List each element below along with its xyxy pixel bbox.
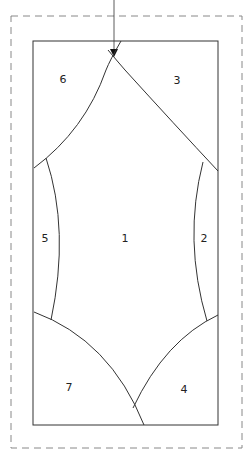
seam-7 <box>34 312 144 425</box>
piece-label-7: 7 <box>66 381 73 394</box>
piece-label-1: 1 <box>122 232 129 245</box>
seam-4 <box>133 315 218 408</box>
piece-label-3: 3 <box>174 74 181 87</box>
seam-6 <box>34 41 121 168</box>
piece-label-5: 5 <box>42 232 49 245</box>
piece-label-4: 4 <box>181 383 188 396</box>
piece-label-2: 2 <box>201 232 208 245</box>
seam-3 <box>108 50 218 171</box>
pattern-drawing <box>0 0 252 456</box>
piece-label-6: 6 <box>60 73 67 86</box>
